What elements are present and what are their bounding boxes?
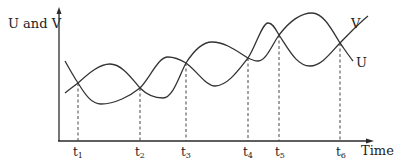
uv-time-diagram: V U U and V Time t1 t2 t3 t4 t5 t6 — [0, 0, 401, 168]
tick-label-t5: t5 — [275, 145, 285, 160]
y-axis-label: U and V — [8, 16, 62, 31]
x-axis — [58, 139, 374, 144]
series-label-u: U — [356, 55, 367, 70]
tick-label-t3: t3 — [181, 145, 191, 160]
crossing-guides — [78, 35, 340, 141]
series-label-v: V — [350, 16, 361, 31]
curve-v — [65, 16, 368, 104]
y-axis-arrow-icon — [57, 7, 62, 14]
tick-label-t6: t6 — [336, 145, 346, 160]
tick-labels: t1 t2 t3 t4 t5 t6 — [73, 145, 346, 160]
x-axis-label: Time — [361, 143, 394, 158]
tick-label-t4: t4 — [243, 145, 253, 160]
tick-label-t1: t1 — [73, 145, 83, 160]
tick-label-t2: t2 — [135, 145, 145, 160]
curve-u — [65, 13, 353, 98]
